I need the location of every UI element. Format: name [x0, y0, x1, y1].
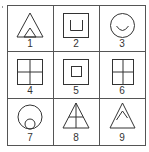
square-icon	[64, 14, 89, 38]
cell-1-figure	[17, 13, 43, 37]
cell-2-figure	[64, 14, 89, 38]
smile-arc-icon	[117, 26, 129, 31]
cell-2-label: 2	[73, 38, 79, 49]
cell-7-figure	[18, 105, 42, 129]
cell-9-figure	[110, 103, 135, 128]
stray-mark	[2, 6, 3, 8]
puzzle-grid-svg: 1 2 3 4 5 6 7 8 9	[0, 0, 149, 152]
cell-1-label: 1	[27, 38, 33, 49]
outer-square-icon	[64, 60, 89, 85]
u-shape-icon	[71, 20, 83, 31]
cell-6-label: 6	[119, 85, 125, 96]
inner-square-icon	[72, 67, 82, 77]
cell-9-label: 9	[119, 132, 125, 143]
cell-4-label: 4	[27, 85, 33, 96]
triangle-icon	[110, 103, 135, 128]
circle-icon	[111, 14, 135, 38]
small-triangle-icon	[24, 28, 36, 37]
cell-7-label: 7	[27, 132, 33, 143]
figure-puzzle: 1 2 3 4 5 6 7 8 9	[0, 0, 149, 152]
small-circle-icon	[25, 119, 35, 129]
cell-5-label: 5	[73, 85, 79, 96]
large-circle-icon	[18, 105, 42, 129]
cell-6-figure	[113, 60, 134, 85]
cell-8-figure	[63, 103, 89, 128]
cell-5-figure	[64, 60, 89, 85]
cell-4-figure	[18, 60, 43, 85]
large-triangle-icon	[17, 13, 43, 37]
cell-3-label: 3	[119, 38, 125, 49]
cell-3-figure	[111, 14, 135, 38]
cell-8-label: 8	[73, 132, 79, 143]
